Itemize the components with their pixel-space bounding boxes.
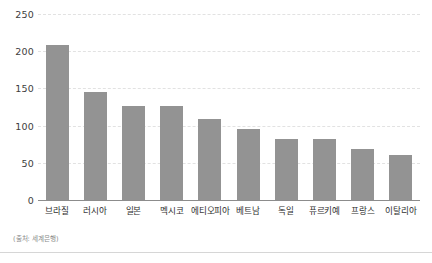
x-axis-tick-label: 에티오피아	[191, 204, 229, 216]
bar[interactable]	[313, 139, 336, 200]
bar[interactable]	[122, 106, 145, 200]
y-axis-tick-label: 0	[4, 195, 34, 206]
bar-chart-figure: 050100150200250 브라질러시아일본멕시코에티오피아베트남독일퓨르키…	[0, 0, 432, 263]
x-axis-tick-label: 멕시코	[153, 204, 191, 216]
bar-slot	[229, 14, 267, 200]
bar-slot	[191, 14, 229, 200]
bar-slot	[382, 14, 420, 200]
bottom-divider	[0, 252, 432, 253]
bar-slot	[153, 14, 191, 200]
source-note: (출처: 세계은행)	[13, 233, 58, 243]
bar[interactable]	[84, 92, 107, 200]
x-axis-tick-label: 베트남	[229, 204, 267, 216]
bar[interactable]	[389, 155, 412, 200]
x-axis-tick-label: 일본	[114, 204, 152, 216]
bar-slot	[344, 14, 382, 200]
bar[interactable]	[46, 45, 69, 200]
y-axis-tick-label: 250	[4, 9, 34, 20]
bar-slot	[76, 14, 114, 200]
x-axis-tick-label: 프랑스	[344, 204, 382, 216]
x-axis-tick-label: 독일	[267, 204, 305, 216]
y-axis-tick-label: 200	[4, 46, 34, 57]
bar[interactable]	[237, 129, 260, 200]
x-axis-line	[38, 200, 420, 201]
x-axis-tick-labels: 브라질러시아일본멕시코에티오피아베트남독일퓨르키예프랑스이탈리아	[38, 204, 420, 224]
y-axis-tick-label: 100	[4, 120, 34, 131]
bar-slot	[114, 14, 152, 200]
x-axis-tick-label: 브라질	[38, 204, 76, 216]
bar[interactable]	[160, 106, 183, 200]
bar[interactable]	[198, 119, 221, 200]
bar-series	[38, 14, 420, 200]
bar-slot	[38, 14, 76, 200]
x-axis-tick-label: 러시아	[76, 204, 114, 216]
y-axis-tick-label: 50	[4, 157, 34, 168]
y-axis-tick-label: 150	[4, 83, 34, 94]
bar-slot	[267, 14, 305, 200]
bar[interactable]	[351, 149, 374, 200]
bar[interactable]	[275, 139, 298, 200]
bar-slot	[305, 14, 343, 200]
x-axis-tick-label: 이탈리아	[382, 204, 420, 216]
x-axis-tick-label: 퓨르키예	[305, 204, 343, 216]
